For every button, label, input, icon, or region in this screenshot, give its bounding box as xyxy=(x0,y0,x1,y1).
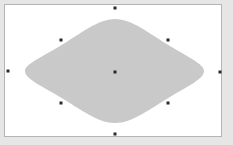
handle-bottom-right[interactable] xyxy=(167,102,170,105)
shape-layer xyxy=(0,0,233,145)
handle-bottom-left[interactable] xyxy=(60,102,63,105)
handle-center[interactable] xyxy=(114,71,117,74)
handle-right[interactable] xyxy=(219,71,222,74)
handle-left[interactable] xyxy=(7,70,10,73)
handle-top-left[interactable] xyxy=(60,39,63,42)
handle-top[interactable] xyxy=(114,7,117,10)
handle-bottom[interactable] xyxy=(114,133,117,136)
handle-top-right[interactable] xyxy=(167,39,170,42)
